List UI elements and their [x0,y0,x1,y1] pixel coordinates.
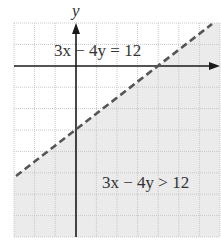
y-axis-arrow-icon [72,23,80,34]
y-axis-label: y [70,1,80,20]
inequality-label: 3x − 4y > 12 [102,173,189,192]
inequality-graph: y 3x − 4y = 12 3x − 4y > 12 [0,0,221,246]
equation-label: 3x − 4y = 12 [54,41,141,60]
